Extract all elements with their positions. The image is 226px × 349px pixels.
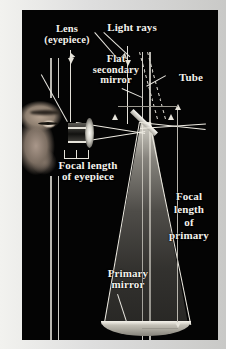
label-secondary-line3: mirror xyxy=(84,75,148,86)
cone-right-arrow xyxy=(168,114,174,120)
label-focal-length-primary: Focal length of primary xyxy=(160,190,218,242)
label-fl-primary-line4: primary xyxy=(160,229,218,242)
label-tube: Tube xyxy=(170,72,212,83)
label-lens: Lens (eyepiece) xyxy=(38,24,96,45)
label-primary-mirror: Primary mirror xyxy=(90,268,166,290)
label-primary-mirror-line2: mirror xyxy=(90,279,166,290)
eyebrow xyxy=(30,110,60,115)
label-fl-primary-line1: Focal xyxy=(160,190,218,203)
label-flat-secondary-mirror: Flat secondary mirror xyxy=(84,54,148,86)
diagram-plate: Lens (eyepiece) Light rays Flat secondar… xyxy=(22,10,218,340)
label-fl-primary-line2: length xyxy=(160,203,218,216)
fl-primary-top-arrowhead xyxy=(175,104,181,110)
fl-primary-top-leader xyxy=(118,106,178,107)
label-fl-eyepiece-line2: of eyepiece xyxy=(34,171,142,182)
eyelash xyxy=(38,122,58,125)
secondary-label-leader xyxy=(122,88,143,98)
label-fl-primary-line3: of xyxy=(160,216,218,229)
fl-eyepiece-bracket-center-tick xyxy=(76,150,77,159)
figure-page: Lens (eyepiece) Light rays Flat secondar… xyxy=(0,0,226,349)
label-focal-length-eyepiece: Focal length of eyepiece xyxy=(34,160,142,182)
eyepiece-lens xyxy=(85,118,94,148)
fl-primary-bottom-leader xyxy=(142,328,178,329)
cone-left-arrow xyxy=(112,114,118,120)
label-lens-line2: (eyepiece) xyxy=(38,35,96,46)
label-light-rays: Light rays xyxy=(94,22,170,33)
